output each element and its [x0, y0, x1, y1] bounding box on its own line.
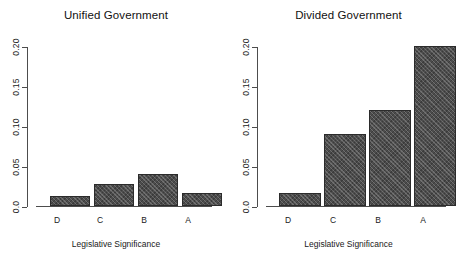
y-tick-label: 0.15 — [241, 78, 251, 95]
y-tick-label: 0.0 — [11, 201, 21, 213]
x-tick-label: B — [141, 215, 147, 225]
y-tick-mark — [252, 47, 257, 48]
y-axis-line-right — [257, 47, 258, 207]
y-tick-mark — [22, 207, 27, 208]
bars-group-right — [266, 46, 446, 206]
y-tick-label: 0.20 — [241, 38, 251, 55]
panel-divided-government: Divided Government 0.0 0.05 0.10 0.15 0.… — [232, 0, 465, 264]
bars-group-left — [36, 46, 212, 206]
x-tick-label: A — [185, 215, 191, 225]
y-tick-mark — [22, 47, 27, 48]
y-tick-mark — [252, 87, 257, 88]
y-tick-label: 0.15 — [11, 78, 21, 95]
x-tick-label: D — [54, 215, 60, 225]
x-axis-title-left: Legislative Significance — [0, 239, 232, 249]
figure-two-panel-barplot: Unified Government 0.0 0.05 0.10 0.15 0.… — [0, 0, 465, 264]
bar — [182, 193, 222, 206]
y-tick-label: 0.20 — [11, 38, 21, 55]
y-axis-line-left — [27, 47, 28, 207]
bar — [414, 46, 456, 206]
x-axis-line-right — [266, 206, 446, 207]
y-tick-mark — [22, 87, 27, 88]
y-tick-mark — [252, 167, 257, 168]
x-tick-label: C — [97, 215, 103, 225]
x-tick-label: D — [285, 215, 291, 225]
y-tick-mark — [252, 127, 257, 128]
x-axis-title-right: Legislative Significance — [232, 239, 465, 249]
x-tick-label: B — [375, 215, 381, 225]
y-tick-mark — [22, 167, 27, 168]
bar — [369, 110, 411, 206]
panel-title-left: Unified Government — [0, 9, 232, 21]
x-tick-label: A — [420, 215, 426, 225]
bar — [50, 196, 90, 206]
y-tick-label: 0.05 — [11, 158, 21, 175]
y-tick-label: 0.0 — [241, 201, 251, 213]
panel-unified-government: Unified Government 0.0 0.05 0.10 0.15 0.… — [0, 0, 232, 264]
y-tick-label: 0.10 — [11, 118, 21, 135]
plot-area-left: 0.0 0.05 0.10 0.15 0.20 — [36, 47, 212, 207]
bar — [324, 134, 366, 206]
panel-title-right: Divided Government — [232, 9, 465, 21]
bar — [94, 184, 134, 206]
x-tick-label: C — [330, 215, 336, 225]
bar — [138, 174, 178, 206]
plot-area-right: 0.0 0.05 0.10 0.15 0.20 — [266, 47, 446, 207]
bar — [279, 193, 321, 206]
y-tick-mark — [252, 207, 257, 208]
y-tick-mark — [22, 127, 27, 128]
x-axis-line-left — [36, 206, 212, 207]
y-tick-label: 0.05 — [241, 158, 251, 175]
y-tick-label: 0.10 — [241, 118, 251, 135]
